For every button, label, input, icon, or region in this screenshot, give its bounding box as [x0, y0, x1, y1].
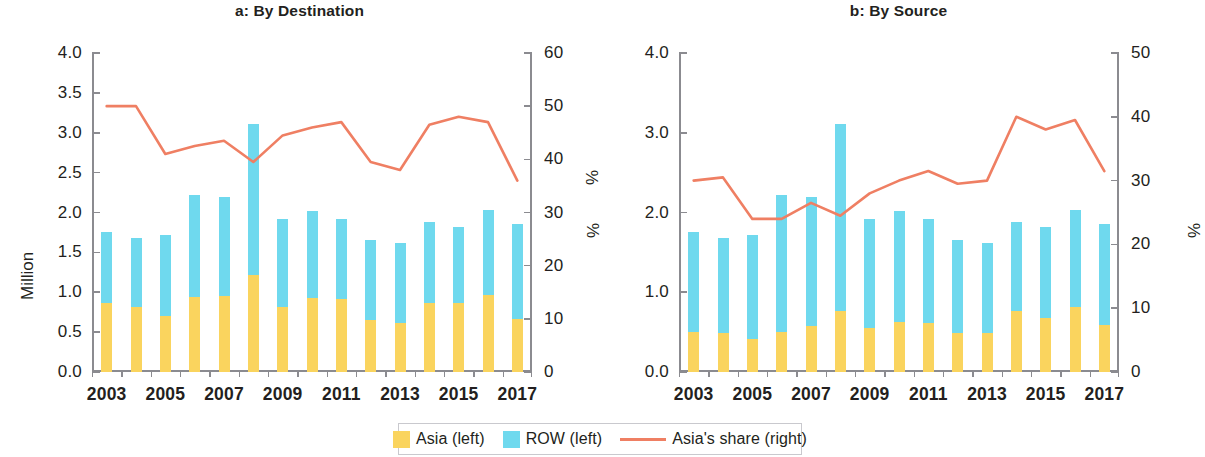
legend-swatch-asia-icon — [393, 431, 410, 448]
panel-a-left-tick-label: 3.0 — [34, 123, 82, 143]
panel-b-x-tick-label: 2009 — [850, 384, 890, 405]
panel-a-x-tick-label: 2017 — [497, 384, 537, 405]
panel-b-x-tick-label: 2003 — [674, 384, 714, 405]
panel-by-destination: a: By Destination 0.00.51.01.52.02.53.03… — [0, 0, 599, 410]
panel-a-plot-area: 0.00.51.01.52.02.53.03.54.00102030405060… — [92, 53, 532, 372]
panel-a-left-tick-label: 1.5 — [34, 242, 82, 262]
panel-b-x-tick-label: 2007 — [791, 384, 831, 405]
panel-a-x-tick-label: 2015 — [439, 384, 479, 405]
panel-b-plot-area: 0.01.02.03.04.00102030405020032005200720… — [679, 53, 1119, 372]
panel-a-x-tick-label: 2005 — [145, 384, 185, 405]
panel-a-x-tick-label: 2007 — [204, 384, 244, 405]
share-line-path — [107, 106, 518, 180]
panel-by-source: b: By Source 0.01.02.03.04.0010203040502… — [599, 0, 1198, 410]
panel-b-x-tick-label: 2013 — [967, 384, 1007, 405]
panel-a-left-axis-label: Million — [18, 252, 38, 300]
panel-a-right-tick-label: 0 — [544, 362, 590, 382]
panel-a-right-tick-label: 20 — [544, 256, 590, 276]
panel-b-x-tick-label: 2015 — [1026, 384, 1066, 405]
legend-label-row: ROW (left) — [526, 430, 603, 448]
panel-a-right-tick-label: 10 — [544, 309, 590, 329]
panel-b-left-tick-label: 4.0 — [621, 43, 669, 63]
panel-b-right-tick-label: 10 — [1131, 298, 1177, 318]
panel-a-title: a: By Destination — [0, 2, 599, 20]
panel-a-right-tick-label: 60 — [544, 43, 590, 63]
panel-a-left-tick-label: 2.0 — [34, 203, 82, 223]
legend-label-asia: Asia (left) — [416, 430, 485, 448]
panel-b-left-tick-label: 0.0 — [621, 362, 669, 382]
panel-a-right-percent-mirror: % — [583, 170, 603, 185]
panel-a-left-tick-label: 0.0 — [34, 362, 82, 382]
panel-b-right-tick-label: 0 — [1131, 362, 1177, 382]
panel-a-right-tick-label: 50 — [544, 96, 590, 116]
panel-a-right-tick-label: 30 — [544, 203, 590, 223]
panel-b-right-axis-label: % — [1185, 223, 1205, 238]
panel-b-x-tick-label: 2011 — [909, 384, 948, 405]
legend-item-row: ROW (left) — [503, 430, 603, 448]
panel-a-right-tick-label: 40 — [544, 149, 590, 169]
panel-b-share-line — [679, 53, 1119, 372]
panel-b-right-tick-label: 30 — [1131, 171, 1177, 191]
legend: Asia (left) ROW (left) Asia's share (rig… — [398, 423, 802, 455]
panel-a-left-tick-label: 1.0 — [34, 282, 82, 302]
panel-a-x-tick-label: 2011 — [322, 384, 361, 405]
legend-item-share: Asia's share (right) — [620, 430, 807, 448]
panel-b-right-tick-label: 50 — [1131, 43, 1177, 63]
panel-b-left-tick-label: 3.0 — [621, 123, 669, 143]
panel-a-x-tick-label: 2009 — [263, 384, 303, 405]
panel-b-right-tick-label: 40 — [1131, 107, 1177, 127]
panel-a-x-tick-label: 2003 — [87, 384, 127, 405]
panel-a-left-tick-label: 3.5 — [34, 83, 82, 103]
panel-a-left-tick-label: 2.5 — [34, 163, 82, 183]
panel-b-x-tick-label: 2017 — [1084, 384, 1124, 405]
panel-a-left-tick-label: 4.0 — [34, 43, 82, 63]
legend-swatch-row-icon — [503, 431, 520, 448]
panel-a-left-tick-label: 0.5 — [34, 322, 82, 342]
panel-a-x-tick-label: 2013 — [380, 384, 420, 405]
panel-b-left-tick-label: 1.0 — [621, 282, 669, 302]
legend-label-share: Asia's share (right) — [672, 430, 807, 448]
share-line-path — [694, 117, 1105, 219]
panel-b-right-tick-label: 20 — [1131, 234, 1177, 254]
panel-b-title: b: By Source — [599, 2, 1198, 20]
panel-b-x-tick-label: 2005 — [732, 384, 772, 405]
legend-item-asia: Asia (left) — [393, 430, 485, 448]
panel-a-share-line — [92, 53, 532, 372]
legend-line-share-icon — [620, 438, 666, 441]
panel-b-left-tick-label: 2.0 — [621, 203, 669, 223]
